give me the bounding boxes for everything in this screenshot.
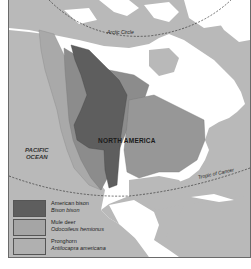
arctic-circle-label: Arctic Circle (107, 29, 134, 35)
legend-name: Mule deer (51, 219, 75, 225)
ocean-label-line2: OCEAN (25, 154, 49, 161)
legend-name: Pronghorn (51, 238, 77, 244)
ocean-label-line1: PACIFIC (25, 147, 49, 154)
legend-swatch-mule-deer (13, 219, 46, 236)
legend-scientific-name: Odocoileus hemionus (51, 226, 104, 232)
legend-scientific-name: Antilocapra americana (51, 245, 106, 251)
legend-item-bison: American bison Bison bison (13, 200, 133, 218)
map-frame: Arctic Circle NORTH AMERICA PACIFIC OCEA… (8, 0, 251, 258)
land-cuba (191, 194, 234, 202)
legend-item-pronghorn: Pronghorn Antilocapra americana (13, 238, 133, 256)
legend-scientific-name: Bison bison (51, 207, 79, 213)
legend-item-mule-deer: Mule deer Odocoileus hemionus (13, 219, 133, 237)
legend-swatch-pronghorn (13, 238, 46, 255)
ocean-label: PACIFIC OCEAN (25, 147, 49, 161)
legend-name: American bison (51, 200, 89, 206)
continent-label: NORTH AMERICA (98, 137, 156, 144)
legend-swatch-bison (13, 200, 46, 217)
